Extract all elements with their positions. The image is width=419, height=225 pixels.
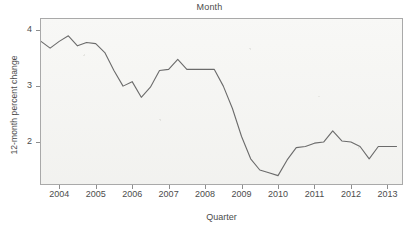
x-tick-label: 2010: [261, 189, 295, 199]
x-tick-mark: [242, 185, 243, 189]
x-tick-mark: [169, 185, 170, 189]
x-tick-label: 2011: [297, 189, 331, 199]
x-tick-mark: [351, 185, 352, 189]
x-tick-mark: [314, 185, 315, 189]
x-axis-label: Quarter: [40, 212, 403, 222]
y-tick-mark: [36, 142, 40, 143]
chart-container: Month 12-month percent change 2342004200…: [0, 0, 419, 225]
y-tick-label: 3: [10, 80, 32, 90]
x-tick-label: 2004: [42, 189, 76, 199]
y-tick-label: 4: [10, 24, 32, 34]
x-tick-label: 2008: [188, 189, 222, 199]
x-tick-label: 2005: [79, 189, 113, 199]
x-tick-label: 2006: [115, 189, 149, 199]
x-tick-mark: [278, 185, 279, 189]
x-tick-mark: [387, 185, 388, 189]
x-tick-mark: [132, 185, 133, 189]
x-tick-mark: [59, 185, 60, 189]
y-tick-mark: [36, 30, 40, 31]
x-tick-mark: [96, 185, 97, 189]
x-tick-label: 2009: [225, 189, 259, 199]
x-tick-label: 2012: [334, 189, 368, 199]
x-tick-mark: [205, 185, 206, 189]
axis-ticks: 2342004200520062007200820092010201120122…: [0, 0, 419, 225]
y-tick-label: 2: [10, 136, 32, 146]
x-tick-label: 2013: [370, 189, 404, 199]
x-tick-label: 2007: [152, 189, 186, 199]
y-tick-mark: [36, 86, 40, 87]
